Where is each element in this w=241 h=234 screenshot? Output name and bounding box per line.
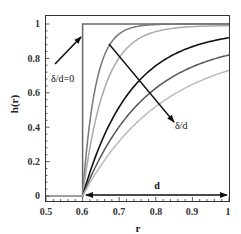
ytick-0.8: 0.8 (28, 53, 41, 64)
xtick-0.9: 0.9 (186, 206, 199, 217)
delta-zero-arrow (55, 37, 81, 64)
ytick-0.6: 0.6 (28, 87, 41, 98)
x-axis-label: r (136, 222, 141, 234)
ytick-0.2: 0.2 (28, 156, 41, 167)
ytick-0: 0 (35, 190, 40, 201)
curves (46, 24, 229, 196)
series-line (46, 24, 229, 196)
xtick-0.6: 0.6 (76, 206, 89, 217)
series-line (46, 38, 229, 196)
axis-ticks (46, 24, 230, 201)
delta-increase-label: δ/d (175, 120, 188, 131)
series-line (46, 24, 229, 196)
series-line (46, 26, 229, 196)
xtick-0.5: 0.5 (40, 206, 53, 217)
series-line (46, 70, 229, 196)
xtick-1: 1 (226, 206, 231, 217)
xtick-0.8: 0.8 (150, 206, 163, 217)
ytick-0.4: 0.4 (28, 122, 41, 133)
y-axis-label: h(r) (8, 95, 21, 114)
delta-zero-label: δ/d=0 (51, 73, 74, 84)
ytick-1: 1 (35, 18, 40, 29)
d-label: d (154, 180, 160, 191)
xtick-0.7: 0.7 (113, 206, 126, 217)
chart: 0 0.2 0.4 0.6 0.8 1 0.5 0.6 0.7 0.8 0.9 … (0, 0, 241, 234)
